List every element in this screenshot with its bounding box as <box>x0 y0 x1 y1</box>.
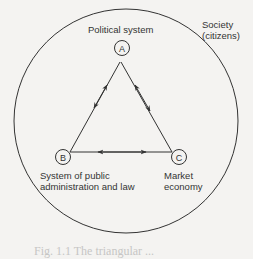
node-c-label-line1: Market <box>164 170 193 181</box>
edge-a-c <box>121 62 172 152</box>
node-b-label-line1: System of public <box>40 170 110 181</box>
arrow-a-c <box>135 85 150 111</box>
arrow-a-b <box>94 85 107 108</box>
society-label: Society <box>202 19 233 30</box>
society-sublabel: (citizens) <box>202 30 240 41</box>
node-a-letter: A <box>119 44 125 54</box>
node-c-label-line2: economy <box>164 181 203 192</box>
node-a-label: Political system <box>88 24 153 35</box>
node-b-letter: B <box>60 153 66 163</box>
figure-caption: Fig. 1.1 The triangular ... <box>34 244 154 259</box>
node-c-letter: C <box>176 153 183 163</box>
node-b-label-line2: administration and law <box>40 181 135 192</box>
